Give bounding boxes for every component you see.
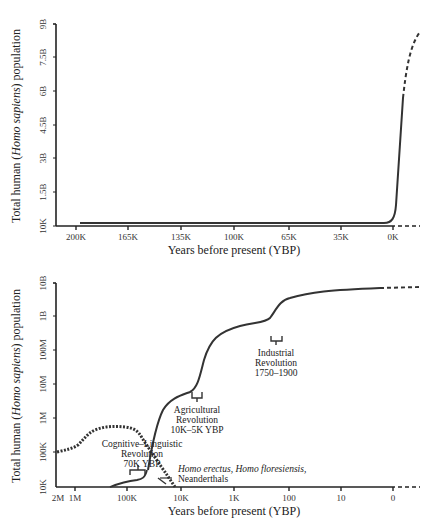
annotation-industrial: Industrial Revolution 1750–1900 [255,348,298,378]
annotation-cognitive: Cognitive–Linguistic Revolution 70K YBP [102,439,183,469]
svg-text:100K: 100K [224,232,245,242]
early-sapiens-line [110,470,147,487]
svg-text:65K: 65K [281,232,297,242]
industrial-bracket [271,336,282,345]
svg-text:Industrial: Industrial [258,348,295,358]
svg-text:1K: 1K [229,493,241,503]
svg-text:Cognitive–Linguistic: Cognitive–Linguistic [102,439,183,449]
top-x-ticks: 200K 165K 135K 100K 65K 35K 0K [66,226,399,242]
bottom-y-axis-label: Total human (Homo sapiens) population [9,289,23,483]
svg-text:10K: 10K [173,493,189,503]
svg-text:135K: 135K [171,232,192,242]
annotation-agricultural: Agricultural Revolution 10K–5K YBP [170,405,223,435]
svg-text:200K: 200K [66,232,87,242]
bottom-projection-line [380,287,420,288]
svg-text:10: 10 [337,493,347,503]
top-chart: Total human (Homo sapiens) population 10… [9,19,420,257]
svg-text:100: 100 [282,493,296,503]
svg-text:4.5B: 4.5B [38,116,48,133]
svg-text:Neanderthals: Neanderthals [178,474,228,484]
svg-text:Homo erectus, Homo floresiensi: Homo erectus, Homo floresiensis, [177,464,306,474]
svg-text:100K: 100K [117,493,138,503]
svg-text:165K: 165K [118,232,139,242]
svg-text:0K: 0K [388,232,400,242]
svg-text:10K–5K YBP: 10K–5K YBP [170,425,223,435]
svg-text:10B: 10B [38,275,48,290]
svg-text:Revolution: Revolution [255,358,297,368]
top-x-axis-label: Years before present (YBP) [168,243,300,257]
svg-text:10K: 10K [38,218,48,234]
top-projection-line [403,32,420,98]
svg-text:6B: 6B [38,86,48,97]
svg-text:Revolution: Revolution [121,449,163,459]
svg-text:1.5B: 1.5B [38,183,48,200]
svg-text:10M: 10M [38,375,48,392]
svg-text:Agricultural: Agricultural [174,405,221,415]
svg-text:70K YBP: 70K YBP [124,459,161,469]
bottom-x-axis-label: Years before present (YBP) [168,504,300,518]
svg-text:9B: 9B [38,19,48,30]
svg-text:10K: 10K [38,479,48,495]
svg-text:1M: 1M [38,412,48,425]
svg-text:2M: 2M [52,493,65,503]
svg-text:Revolution: Revolution [176,415,218,425]
svg-text:1750–1900: 1750–1900 [255,368,298,378]
top-population-line [80,98,403,223]
svg-text:1B: 1B [38,311,48,322]
agricultural-bracket [192,392,202,402]
svg-text:1M: 1M [69,493,82,503]
figure: Total human (Homo sapiens) population 10… [0,0,433,529]
sapiens-population-line [148,288,380,470]
svg-text:100M: 100M [38,339,48,361]
svg-text:3B: 3B [38,153,48,164]
bottom-x-ticks: 2M 1M 100K 10K 1K 100 10 0 [52,487,396,503]
svg-text:35K: 35K [333,232,349,242]
top-y-ticks: 10K 1.5B 3B 4.5B 6B 7.5B 9B [38,19,56,234]
svg-text:7.5B: 7.5B [38,48,48,65]
top-y-axis-label: Total human (Homo sapiens) population [9,29,23,223]
annotation-archaic-humans: Homo erectus, Homo floresiensis, Neander… [177,464,306,484]
bottom-chart: Total human (Homo sapiens) population 10… [9,275,420,518]
archaic-pointer [158,478,166,484]
bottom-y-ticks: 10K 100K 1M 10M 100M 1B 10B [38,275,56,494]
svg-text:100K: 100K [38,442,48,463]
svg-text:0: 0 [391,493,396,503]
